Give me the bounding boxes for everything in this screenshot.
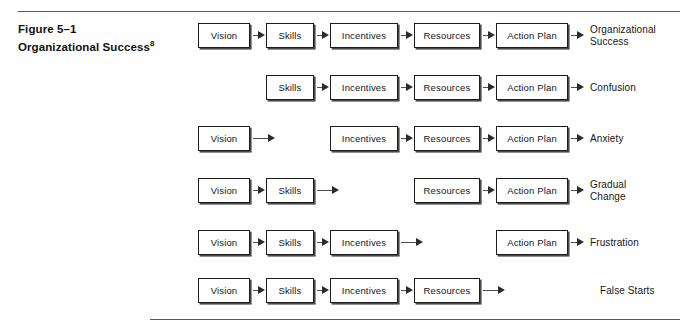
flow-box-action-plan[interactable]: Action Plan	[496, 23, 568, 48]
flow-outcome-line: Frustration	[590, 237, 639, 250]
flow-box-vision[interactable]: Vision	[198, 230, 250, 255]
flow-arrow-head	[406, 31, 413, 39]
flow-arrow-head	[406, 134, 413, 142]
flow-arrow-head	[258, 31, 265, 39]
flow-arrow-head	[258, 286, 265, 294]
flow-outcome-label: Frustration	[590, 228, 639, 258]
flow-arrow-head	[258, 186, 265, 194]
flow-box-label: Action Plan	[507, 82, 557, 93]
flow-arrow-head	[488, 83, 495, 91]
flow-box-incentives[interactable]: Incentives	[330, 126, 398, 151]
flow-arrow-head	[322, 238, 329, 246]
flow-box-resources[interactable]: Resources	[414, 126, 480, 151]
flow-box-label: Resources	[424, 30, 471, 41]
flow-arrow	[401, 34, 413, 36]
flow-arrow-head	[322, 31, 329, 39]
flow-outcome-line: Confusion	[590, 82, 636, 95]
flow-arrow	[401, 289, 413, 291]
flow-arrow-shaft	[253, 138, 268, 139]
flow-arrow	[317, 189, 339, 191]
flow-box-label: Action Plan	[507, 237, 557, 248]
flow-row: SkillsIncentivesResourcesAction PlanConf…	[0, 73, 692, 103]
flow-box-skills[interactable]: Skills	[266, 230, 314, 255]
flow-arrow	[571, 137, 584, 139]
flow-box-resources[interactable]: Resources	[414, 75, 480, 100]
flow-box-label: Skills	[278, 185, 301, 196]
bottom-divider-rule	[150, 319, 680, 320]
flow-box-action-plan[interactable]: Action Plan	[496, 126, 568, 151]
flow-arrow	[253, 289, 265, 291]
flow-arrow	[483, 137, 495, 139]
flow-box-resources[interactable]: Resources	[414, 278, 480, 303]
flow-box-resources[interactable]: Resources	[414, 178, 480, 203]
flow-box-action-plan[interactable]: Action Plan	[496, 230, 568, 255]
flow-box-incentives[interactable]: Incentives	[330, 230, 398, 255]
flow-row: VisionSkillsIncentivesResourcesFalse Sta…	[0, 276, 692, 306]
flow-box-skills[interactable]: Skills	[266, 75, 314, 100]
flow-box-vision[interactable]: Vision	[198, 126, 250, 151]
flow-box-incentives[interactable]: Incentives	[330, 278, 398, 303]
flow-arrow-head	[332, 186, 339, 194]
flow-box-label: Vision	[211, 185, 238, 196]
flow-box-label: Vision	[211, 133, 238, 144]
flow-box-vision[interactable]: Vision	[198, 278, 250, 303]
flow-box-incentives[interactable]: Incentives	[330, 75, 398, 100]
flow-arrow-head	[488, 31, 495, 39]
flow-box-label: Incentives	[342, 30, 386, 41]
flow-arrow	[483, 86, 495, 88]
flow-arrow	[317, 86, 329, 88]
flow-box-label: Resources	[424, 185, 471, 196]
flow-box-vision[interactable]: Vision	[198, 23, 250, 48]
flow-outcome-line: Gradual	[590, 179, 626, 192]
flow-row: VisionIncentivesResourcesAction PlanAnxi…	[0, 124, 692, 154]
flow-arrow-head	[268, 134, 275, 142]
flow-arrow-head	[577, 134, 584, 142]
flow-arrow	[401, 241, 423, 243]
flow-arrow-head	[258, 238, 265, 246]
flow-box-resources[interactable]: Resources	[414, 23, 480, 48]
flow-box-label: Incentives	[342, 285, 386, 296]
flow-arrow	[253, 34, 265, 36]
flow-arrow-shaft	[317, 190, 332, 191]
flow-box-label: Action Plan	[507, 30, 557, 41]
flow-box-label: Incentives	[342, 82, 386, 93]
flow-box-incentives[interactable]: Incentives	[330, 23, 398, 48]
flow-box-action-plan[interactable]: Action Plan	[496, 75, 568, 100]
flow-outcome-label: OrganizationalSuccess	[590, 21, 656, 51]
flow-arrow-head	[577, 83, 584, 91]
flow-arrow	[253, 241, 265, 243]
flow-arrow-head	[488, 134, 495, 142]
flow-outcome-label: Anxiety	[590, 124, 624, 154]
flow-box-label: Action Plan	[507, 133, 557, 144]
flow-box-skills[interactable]: Skills	[266, 278, 314, 303]
flow-arrow	[317, 34, 329, 36]
flow-outcome-line: Anxiety	[590, 133, 624, 146]
flow-arrow-head	[577, 31, 584, 39]
flow-arrow	[317, 241, 329, 243]
flow-arrow-head	[488, 186, 495, 194]
flow-arrow-head	[577, 186, 584, 194]
flow-box-skills[interactable]: Skills	[266, 23, 314, 48]
flow-box-label: Vision	[211, 285, 238, 296]
flow-arrow	[483, 289, 505, 291]
flow-arrow-head	[577, 238, 584, 246]
flow-arrow-head	[406, 83, 413, 91]
flow-box-vision[interactable]: Vision	[198, 178, 250, 203]
flow-box-skills[interactable]: Skills	[266, 178, 314, 203]
flow-arrow	[317, 289, 329, 291]
flow-outcome-line: Organizational	[590, 24, 656, 37]
flow-box-label: Incentives	[342, 237, 386, 248]
flow-row: VisionSkillsResourcesAction PlanGradualC…	[0, 176, 692, 206]
flow-arrow	[253, 137, 275, 139]
flow-outcome-label: GradualChange	[590, 176, 626, 206]
flow-arrow-head	[322, 286, 329, 294]
flow-box-label: Vision	[211, 237, 238, 248]
flow-arrow-head	[498, 286, 505, 294]
flow-arrow-head	[406, 286, 413, 294]
flow-box-action-plan[interactable]: Action Plan	[496, 178, 568, 203]
flow-outcome-line: False Starts	[600, 285, 655, 298]
flow-row: VisionSkillsIncentivesResourcesAction Pl…	[0, 21, 692, 51]
flow-arrow-head	[416, 238, 423, 246]
flow-box-label: Skills	[278, 285, 301, 296]
flow-arrow	[401, 86, 413, 88]
